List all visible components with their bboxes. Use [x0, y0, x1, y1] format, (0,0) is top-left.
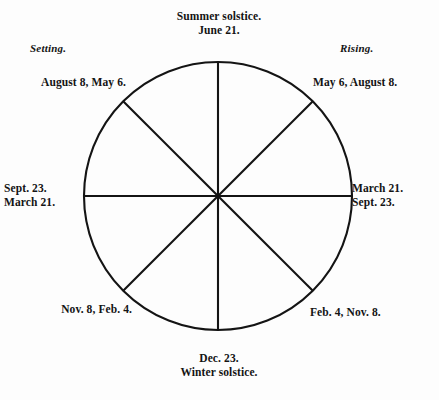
label-right-equinox-line1: March 21.	[352, 182, 438, 196]
label-right-equinox-dates: March 21. Sept. 23.	[352, 182, 438, 209]
label-lower-right-dates-line1: Feb. 4, Nov. 8.	[310, 306, 438, 320]
label-upper-left-dates-line1: August 8, May 6.	[4, 76, 126, 90]
label-right-equinox-line2: Sept. 23.	[352, 196, 438, 210]
label-upper-right-dates-line1: May 6, August 8.	[313, 76, 439, 90]
label-left-equinox-line1: Sept. 23.	[4, 182, 88, 196]
label-upper-left-dates: August 8, May 6.	[4, 76, 126, 90]
heading-rising-text: Rising.	[340, 42, 430, 56]
label-lower-left-dates: Nov. 8, Feb. 4.	[18, 303, 132, 317]
label-summer-solstice: Summer solstice. June 21.	[139, 10, 299, 37]
label-lower-left-dates-line1: Nov. 8, Feb. 4.	[18, 303, 132, 317]
heading-setting-text: Setting.	[30, 42, 126, 56]
heading-setting: Setting.	[30, 42, 126, 56]
cropped-caption-sliver	[150, 392, 290, 400]
label-winter-solstice-line2: Winter solstice.	[139, 366, 299, 380]
figure-canvas: Setting. Rising. Summer solstice. June 2…	[0, 0, 439, 400]
label-lower-right-dates: Feb. 4, Nov. 8.	[310, 306, 438, 320]
heading-rising: Rising.	[340, 42, 430, 56]
label-summer-solstice-line2: June 21.	[139, 24, 299, 38]
label-left-equinox-line2: March 21.	[4, 196, 88, 210]
label-summer-solstice-line1: Summer solstice.	[139, 10, 299, 24]
label-winter-solstice: Dec. 23. Winter solstice.	[139, 352, 299, 379]
label-upper-right-dates: May 6, August 8.	[313, 76, 439, 90]
label-left-equinox-dates: Sept. 23. March 21.	[4, 182, 88, 209]
label-winter-solstice-line1: Dec. 23.	[139, 352, 299, 366]
